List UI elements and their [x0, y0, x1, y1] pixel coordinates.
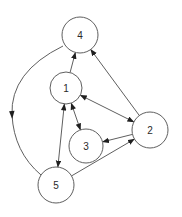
edge-1-3: [71, 103, 80, 130]
diagram-canvas: 12345: [0, 0, 182, 217]
node-4: 4: [62, 17, 98, 53]
edge-2-3: [102, 134, 132, 142]
node-label-1: 1: [63, 83, 69, 94]
node-1: 1: [50, 72, 82, 104]
edge-4-5: [12, 46, 63, 175]
node-5: 5: [38, 167, 74, 203]
edge-1-4: [70, 52, 75, 72]
node-label-2: 2: [147, 125, 153, 136]
edge-1-5: [58, 104, 65, 167]
arrowhead-4-5: [9, 111, 15, 119]
directed-graph-diagram: 12345: [0, 0, 182, 217]
node-2: 2: [132, 112, 168, 148]
node-label-5: 5: [53, 180, 59, 191]
node-3: 3: [69, 129, 103, 163]
node-label-4: 4: [77, 30, 83, 41]
node-label-3: 3: [83, 141, 89, 152]
edge-2-4: [91, 49, 140, 115]
edge-1-2: [80, 95, 134, 122]
